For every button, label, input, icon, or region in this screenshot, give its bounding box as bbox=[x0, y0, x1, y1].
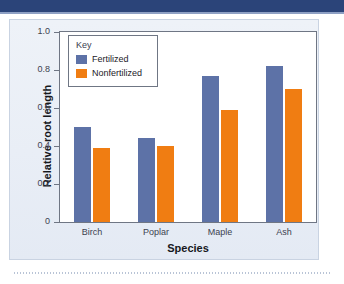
bar-ash-nonfertilized bbox=[285, 89, 302, 222]
footer-dotted-rule bbox=[14, 272, 330, 274]
bar-ash-fertilized bbox=[266, 66, 283, 222]
legend-swatch-icon-fertilized bbox=[76, 55, 87, 64]
bar-birch-nonfertilized bbox=[93, 148, 110, 222]
y-axis-tick-label: 0 bbox=[20, 217, 50, 226]
y-axis-title: Relative root length bbox=[41, 51, 53, 221]
x-axis-label-birch: Birch bbox=[62, 227, 122, 237]
bar-poplar-nonfertilized bbox=[157, 146, 174, 222]
y-axis-tick-label: 0.6 bbox=[20, 103, 50, 112]
y-axis-tick-label: 0.4 bbox=[20, 141, 50, 150]
x-axis-label-ash: Ash bbox=[254, 227, 314, 237]
bar-maple-nonfertilized bbox=[221, 110, 238, 222]
legend-title: Key bbox=[76, 40, 92, 50]
legend: Key Fertilized Nonfertilized bbox=[68, 35, 158, 87]
bar-maple-fertilized bbox=[202, 76, 219, 222]
y-axis-tick-label: 1.0 bbox=[20, 27, 50, 36]
bar-birch-fertilized bbox=[74, 127, 91, 222]
legend-swatch-icon-nonfertilized bbox=[76, 69, 87, 78]
header-bar bbox=[0, 0, 344, 12]
figure-panel: Relative root length 00.20.40.60.81.0 Bi… bbox=[0, 0, 344, 284]
x-axis-label-poplar: Poplar bbox=[126, 227, 186, 237]
header-bar-edge bbox=[0, 12, 344, 14]
y-axis-tick-label: 0.2 bbox=[20, 179, 50, 188]
legend-label-fertilized: Fertilized bbox=[92, 54, 129, 64]
y-axis-tick bbox=[54, 222, 60, 223]
legend-label-nonfertilized: Nonfertilized bbox=[92, 68, 142, 78]
x-axis-label-maple: Maple bbox=[190, 227, 250, 237]
x-axis-title: Species bbox=[59, 242, 317, 254]
bar-poplar-fertilized bbox=[138, 138, 155, 222]
y-axis-tick-label: 0.8 bbox=[20, 65, 50, 74]
